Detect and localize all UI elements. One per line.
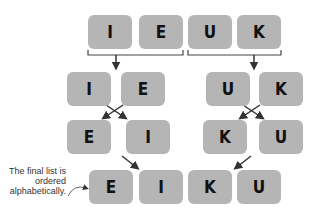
box-split-right-2: K — [259, 72, 303, 106]
box-sorted-left-2: I — [126, 120, 170, 154]
box-merged-2: I — [139, 170, 183, 204]
annotation-line-3: alphabetically. — [0, 186, 66, 196]
box-merged-3: K — [188, 170, 232, 204]
annotation-line-2: ordered — [0, 176, 66, 186]
box-initial-4: K — [237, 15, 281, 49]
box-initial-1: I — [88, 15, 132, 49]
box-merged-1: E — [89, 170, 133, 204]
box-split-right-1: U — [206, 72, 250, 106]
box-initial-3: U — [188, 15, 232, 49]
box-merged-4: U — [237, 170, 281, 204]
box-sorted-left-1: E — [67, 120, 111, 154]
box-split-left-1: I — [67, 72, 111, 106]
box-sorted-right-2: U — [259, 120, 303, 154]
annotation-line-1: The final list is — [0, 166, 66, 176]
box-split-left-2: E — [121, 72, 165, 106]
annotation-note: The final list is ordered alphabetically… — [0, 166, 66, 196]
box-initial-2: E — [139, 15, 183, 49]
box-sorted-right-1: K — [203, 120, 247, 154]
